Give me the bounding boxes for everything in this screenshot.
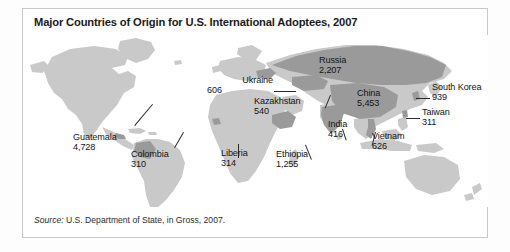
map-label-india: India 416 [328,119,347,140]
map-label-liberia-name: Liberia [221,148,248,158]
map-label-china-value: 5,453 [357,98,380,108]
map-label-vietnam: Vietnam 626 [372,131,405,152]
page-title: Major Countries of Origin for U.S. Inter… [34,16,357,28]
map-label-guatemala-value: 4,728 [73,142,117,152]
map-label-guatemala-name: Guatemala [73,132,117,142]
hispaniola-shape [148,132,157,135]
map-label-russia-name: Russia [319,55,346,65]
map-label-colombia: Colombia 310 [131,149,169,170]
world-map-svg [24,35,488,207]
map-label-south-korea: South Korea 939 [432,82,481,103]
taiwan-highlight [402,110,408,118]
map-label-ukraine-value: 606 [207,85,273,95]
map-label-colombia-name: Colombia [131,149,169,159]
map-label-liberia: Liberia 314 [221,148,248,169]
map-label-russia-value: 2,207 [319,65,346,75]
map-label-liberia-value: 314 [221,158,248,168]
leader-line-taiwan [406,118,420,119]
map-label-taiwan-value: 311 [422,117,450,127]
map-label-india-value: 416 [328,129,347,139]
map-label-kazakhstan: Kazakhstan 540 [254,96,301,117]
source-label: Source: [34,215,64,225]
map-label-south-korea-value: 939 [432,92,481,102]
map-label-ethiopia-name: Ethiopia [276,149,308,159]
map-label-taiwan-name: Taiwan [422,107,450,117]
map-label-kazakhstan-value: 540 [254,106,301,116]
figure-container: Major Countries of Origin for U.S. Inter… [22,8,488,238]
leader-line-south-korea [416,98,430,99]
map-label-ukraine-name: Ukraine [207,75,273,85]
map-label-kazakhstan-name: Kazakhstan [254,96,301,106]
map-label-russia: Russia 2,207 [319,55,346,76]
map-label-south-korea-name: South Korea [432,82,481,92]
map-label-vietnam-value: 626 [372,141,405,151]
map-label-ukraine: Ukraine 606 [207,75,273,96]
world-map [24,35,488,207]
leader-line-ukraine [274,91,296,92]
source-note: Source: U.S. Department of State, in Gro… [34,215,225,225]
map-label-ethiopia: Ethiopia 1,255 [276,149,308,170]
map-label-china-name: China [357,88,380,98]
map-label-india-name: India [328,119,347,129]
map-label-vietnam-name: Vietnam [372,131,405,141]
map-label-taiwan: Taiwan 311 [422,107,450,128]
map-label-china: China 5,453 [357,88,380,109]
map-label-ethiopia-value: 1,255 [276,159,308,169]
map-label-guatemala: Guatemala 4,728 [73,132,117,153]
source-text: U.S. Department of State, in Gross, 2007… [64,215,225,225]
map-label-colombia-value: 310 [131,159,169,169]
